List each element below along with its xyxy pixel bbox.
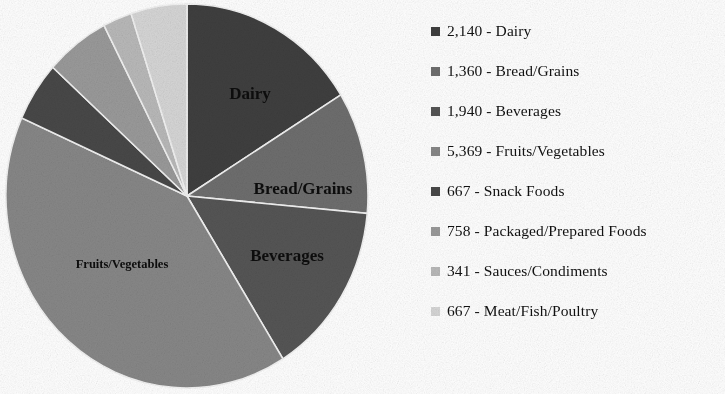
legend-item-label: 667 - Snack Foods: [447, 182, 565, 200]
legend-item[interactable]: 667 - Meat/Fish/Poultry: [431, 301, 598, 321]
pie-chart-svg: DairyBread/GrainsBeveragesFruits/Vegetab…: [0, 0, 400, 394]
legend-item-label: 1,360 - Bread/Grains: [447, 62, 579, 80]
legend-swatch-icon: [431, 307, 440, 316]
pie-slice-label: Dairy: [229, 84, 271, 103]
legend-swatch-icon: [431, 227, 440, 236]
legend-item[interactable]: 5,369 - Fruits/Vegetables: [431, 141, 605, 161]
legend-swatch-icon: [431, 267, 440, 276]
legend-item-label: 5,369 - Fruits/Vegetables: [447, 142, 605, 160]
pie-slice-label: Beverages: [250, 246, 324, 265]
legend-swatch-icon: [431, 67, 440, 76]
legend-swatch-icon: [431, 27, 440, 36]
legend-swatch-icon: [431, 107, 440, 116]
pie-chart-figure: DairyBread/GrainsBeveragesFruits/Vegetab…: [0, 0, 725, 394]
legend-item[interactable]: 1,940 - Beverages: [431, 101, 561, 121]
legend-swatch-icon: [431, 187, 440, 196]
legend-item-label: 1,940 - Beverages: [447, 102, 561, 120]
pie-slice-label: Bread/Grains: [254, 179, 353, 198]
legend-item[interactable]: 667 - Snack Foods: [431, 181, 565, 201]
legend-item-label: 341 - Sauces/Condiments: [447, 262, 608, 280]
legend-item-label: 667 - Meat/Fish/Poultry: [447, 302, 598, 320]
legend-item[interactable]: 1,360 - Bread/Grains: [431, 61, 579, 81]
chart-legend: 2,140 - Dairy1,360 - Bread/Grains1,940 -…: [431, 0, 725, 394]
legend-item-label: 758 - Packaged/Prepared Foods: [447, 222, 647, 240]
legend-item[interactable]: 341 - Sauces/Condiments: [431, 261, 608, 281]
pie-slice-label: Fruits/Vegetables: [76, 257, 169, 271]
pie-chart-area: DairyBread/GrainsBeveragesFruits/Vegetab…: [0, 0, 400, 394]
legend-swatch-icon: [431, 147, 440, 156]
legend-item-label: 2,140 - Dairy: [447, 22, 531, 40]
legend-item[interactable]: 758 - Packaged/Prepared Foods: [431, 221, 647, 241]
legend-item[interactable]: 2,140 - Dairy: [431, 21, 531, 41]
